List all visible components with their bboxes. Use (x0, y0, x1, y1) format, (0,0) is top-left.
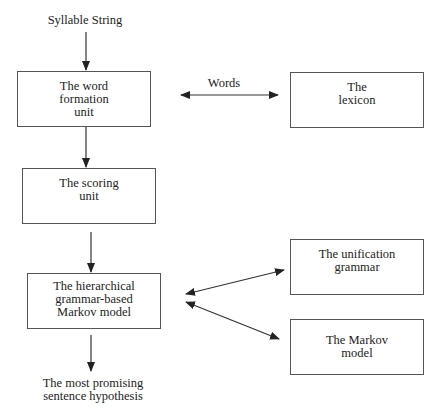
node-markov-model: The Markov model (290, 319, 424, 375)
input-label: Syllable String (30, 14, 140, 27)
node-scoring-unit: The scoring unit (22, 168, 156, 224)
node-unification-text: The unification grammar (319, 248, 396, 274)
node-scoring-text: The scoring unit (59, 177, 118, 203)
node-markov-text: The Markov model (326, 334, 388, 360)
node-hierarchical-markov-model: The hierarchical grammar-based Markov mo… (27, 273, 161, 329)
node-word-formation-text: The word formation unit (59, 80, 108, 119)
edge-label-words: Words (200, 77, 248, 90)
output-label: The most promising sentence hypothesis (28, 377, 158, 403)
node-hierarchical-text: The hierarchical grammar-based Markov mo… (53, 280, 135, 319)
node-lexicon-text: The lexicon (339, 81, 376, 107)
arrow-hierarchical-unification (186, 270, 284, 294)
arrow-hierarchical-markov (186, 302, 279, 339)
node-lexicon: The lexicon (290, 72, 424, 128)
node-word-formation-unit: The word formation unit (17, 71, 151, 127)
node-unification-grammar: The unification grammar (290, 239, 424, 295)
